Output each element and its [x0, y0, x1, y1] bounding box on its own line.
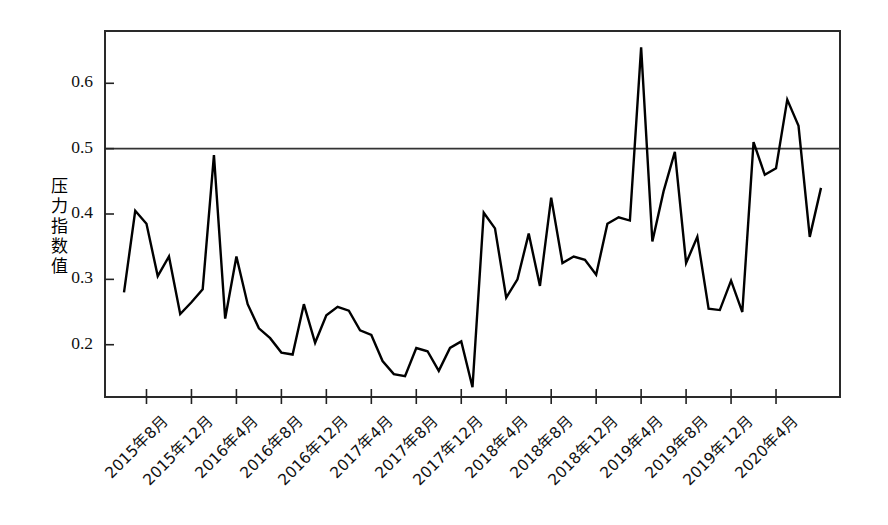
chart-figure: 压 力 指 数 值 0.20.30.40.50.6 2015年8月2015年12…: [0, 0, 888, 525]
y-tick-label: 0.5: [53, 137, 93, 158]
plot-frame: [105, 31, 840, 397]
y-tick-label: 0.2: [53, 333, 93, 354]
y-tick-label: 0.3: [53, 267, 93, 288]
data-series-line: [124, 47, 821, 387]
y-tick-label: 0.6: [53, 71, 93, 92]
y-tick-label: 0.4: [53, 202, 93, 223]
